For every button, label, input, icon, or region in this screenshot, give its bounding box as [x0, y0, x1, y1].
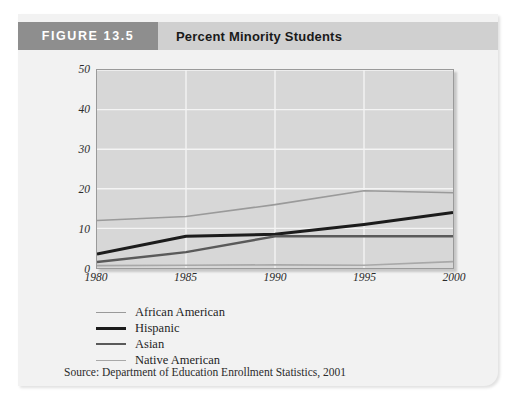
- chart-svg: [97, 70, 453, 268]
- chart-plot: 01020304050 19801985199019952000: [64, 69, 464, 294]
- source-note: Source: Department of Education Enrollme…: [64, 366, 346, 378]
- y-tick-10: 10: [79, 223, 91, 235]
- y-tick-30: 30: [79, 143, 91, 155]
- figure-header: FIGURE 13.5 Percent Minority Students: [18, 22, 498, 50]
- x-axis-tick-labels: 19801985199019952000: [96, 271, 454, 289]
- legend-label: African American: [135, 305, 225, 320]
- y-axis-tick-labels: 01020304050: [64, 69, 90, 269]
- legend-item-asian: Asian: [96, 336, 396, 352]
- y-tick-20: 20: [79, 183, 91, 195]
- x-tick-2000: 2000: [443, 271, 466, 283]
- x-tick-1985: 1985: [174, 271, 197, 283]
- figure-number-tag: FIGURE 13.5: [18, 22, 158, 50]
- plot-area: [96, 69, 454, 269]
- legend-line-swatch: [96, 312, 126, 313]
- legend-item-african-american: African American: [96, 304, 396, 320]
- figure-card: FIGURE 13.5 Percent Minority Students 01…: [18, 14, 498, 386]
- legend-line-swatch: [96, 327, 126, 330]
- legend-label: Hispanic: [135, 321, 179, 336]
- y-tick-50: 50: [79, 63, 91, 75]
- chart-legend: African AmericanHispanicAsianNative Amer…: [96, 304, 396, 368]
- legend-line-swatch: [96, 360, 126, 361]
- legend-item-hispanic: Hispanic: [96, 320, 396, 336]
- y-tick-40: 40: [79, 103, 91, 115]
- legend-line-swatch: [96, 343, 126, 345]
- gridlines: [97, 70, 453, 268]
- legend-label: Asian: [135, 337, 164, 352]
- x-tick-1990: 1990: [264, 271, 287, 283]
- figure-title: Percent Minority Students: [158, 22, 498, 50]
- x-tick-1995: 1995: [353, 271, 376, 283]
- x-tick-1980: 1980: [85, 271, 108, 283]
